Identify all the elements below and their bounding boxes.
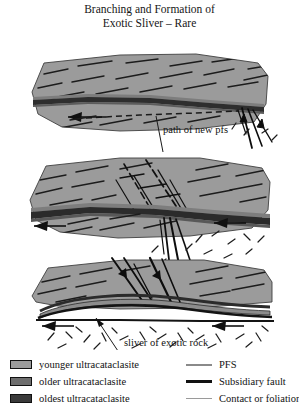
panel-top-rock-body	[32, 54, 268, 131]
figure-title-line-2: Exotic Sliver – Rare	[0, 17, 299, 31]
annotation-path-of-new-pfs: path of new pfs	[163, 124, 228, 136]
panel-bottom-slip-arrow-left	[42, 321, 74, 331]
panel-top-branching-fault-strands	[238, 108, 272, 148]
legend-item-older-ultracataclasite: older ultracataclasite	[10, 373, 139, 390]
diagram-svg	[0, 30, 299, 350]
panel-bottom-new-pfs	[36, 320, 274, 321]
legend-label: Contact or foliation	[219, 393, 299, 404]
oldest-ultracataclasite-swatch	[10, 394, 32, 403]
legend-label: younger ultracataclasite	[39, 359, 139, 370]
legend-label: older ultracataclasite	[39, 376, 126, 387]
annotation-sliver-of-exotic-rock: sliver of exotic rock	[124, 337, 208, 349]
contact-or-foliation-line-icon	[186, 398, 212, 399]
legend-item-subsidiary-fault: Subsidiary fault	[186, 373, 299, 390]
figure-root: Branching and Formation of Exotic Sliver…	[0, 0, 299, 420]
legend-label: PFS	[219, 359, 237, 370]
legend-lines-column: PFS Subsidiary fault Contact or foliatio…	[186, 356, 299, 407]
legend-item-oldest-ultracataclasite: oldest ultracataclasite	[10, 390, 139, 407]
pfs-line-icon	[186, 364, 212, 366]
figure-title-line-1: Branching and Formation of	[0, 3, 299, 17]
legend-label: oldest ultracataclasite	[39, 393, 130, 404]
subsidiary-fault-line-icon	[186, 380, 212, 383]
panel-middle	[30, 158, 270, 270]
legend-label: Subsidiary fault	[219, 376, 286, 387]
legend-item-pfs: PFS	[186, 356, 299, 373]
legend-units-column: younger ultracataclasite older ultracata…	[10, 356, 139, 407]
legend-item-younger-ultracataclasite: younger ultracataclasite	[10, 356, 139, 373]
figure-title: Branching and Formation of Exotic Sliver…	[0, 3, 299, 30]
panel-top	[32, 54, 277, 152]
legend-item-contact-or-foliation: Contact or foliation	[186, 390, 299, 407]
panel-bottom-slip-arrow-right	[212, 321, 244, 331]
figure-legend: younger ultracataclasite older ultracata…	[0, 356, 299, 412]
older-ultracataclasite-swatch	[10, 377, 32, 386]
younger-ultracataclasite-swatch	[10, 360, 32, 369]
panel-stack	[0, 30, 299, 350]
